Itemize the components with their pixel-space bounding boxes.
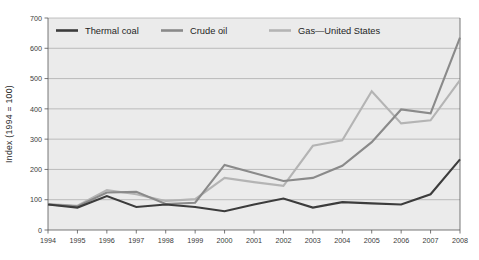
legend-label-2: Gas—United States (298, 26, 381, 36)
x-tick-label: 1997 (128, 236, 144, 245)
y-tick-label: 100 (30, 195, 42, 204)
x-tick-label: 2007 (423, 236, 439, 245)
y-tick-label: 600 (30, 44, 42, 53)
legend-label-1: Crude oil (190, 26, 227, 36)
x-tick-label: 1994 (40, 236, 56, 245)
x-tick-label: 1996 (99, 236, 115, 245)
y-tick-label: 500 (30, 74, 42, 83)
line-chart: 0100200300400500600700 19941995199619971… (0, 0, 479, 260)
x-tick-label: 1995 (69, 236, 85, 245)
x-tick-label: 2001 (246, 236, 262, 245)
x-tick-label: 1999 (187, 236, 203, 245)
y-tick-label: 0 (38, 226, 42, 235)
x-tick-label: 2002 (275, 236, 291, 245)
chart-canvas: 0100200300400500600700 19941995199619971… (0, 0, 479, 260)
y-tick-label: 200 (30, 165, 42, 174)
legend-label-0: Thermal coal (85, 26, 139, 36)
x-tick-label: 2003 (305, 236, 321, 245)
x-tick-label: 2000 (217, 236, 233, 245)
x-tick-label: 2004 (334, 236, 350, 245)
y-tick-label: 300 (30, 135, 42, 144)
chart-legend: Thermal coalCrude oilGas—United States (56, 26, 381, 36)
x-tick-label: 1998 (158, 236, 174, 245)
x-tick-label: 2005 (364, 236, 380, 245)
y-tick-label: 400 (30, 105, 42, 114)
x-tick-label: 2006 (393, 236, 409, 245)
y-axis-title: Index (1994 = 100) (4, 85, 14, 163)
y-tick-label: 700 (30, 14, 42, 23)
x-tick-label: 2008 (452, 236, 468, 245)
